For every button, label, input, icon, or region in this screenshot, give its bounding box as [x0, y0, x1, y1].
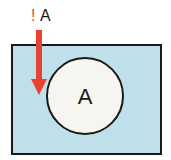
- diagram-canvas: A ! A: [0, 0, 171, 160]
- complement-label: A: [40, 7, 51, 24]
- arrow-shaft: [36, 30, 42, 80]
- circle-label: A: [78, 84, 93, 109]
- not-symbol: !: [31, 7, 35, 24]
